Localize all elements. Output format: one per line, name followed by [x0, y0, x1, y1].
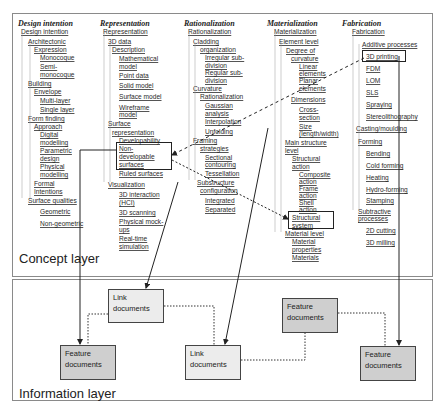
tree-node[interactable]: Point data — [119, 72, 149, 79]
tree-node[interactable]: Surface qualities — [28, 197, 77, 204]
tree-node[interactable]: Rationalization — [188, 28, 231, 35]
tree-node[interactable]: Non-geometric — [40, 220, 83, 227]
tree-node[interactable]: SLS — [366, 89, 378, 96]
tree-node[interactable]: Material level — [285, 230, 324, 237]
tree-node[interactable]: simulation — [119, 243, 149, 250]
tree-node[interactable]: section — [299, 114, 320, 121]
tree-node[interactable]: Structural — [292, 155, 320, 162]
tree-node[interactable]: division — [205, 77, 227, 84]
tree-node[interactable]: (HCI) — [119, 199, 135, 206]
tree-node[interactable]: Spraying — [366, 101, 392, 108]
tree-node[interactable]: 3D milling — [366, 239, 395, 246]
tree-node[interactable]: Expression — [34, 46, 67, 53]
tree-node[interactable]: configuration — [200, 187, 238, 194]
tree-node[interactable]: Degree of — [286, 47, 315, 54]
tree-node[interactable]: Stereolithography — [366, 113, 418, 120]
tree-node[interactable]: Intentions — [34, 188, 63, 195]
tree-node[interactable]: Representation — [103, 28, 148, 35]
tree-node[interactable]: Gaussian — [205, 102, 233, 109]
tree-node[interactable]: Architectonic — [28, 38, 66, 45]
tree-node[interactable]: level — [285, 147, 299, 154]
tree-node[interactable]: Dimensions — [291, 96, 325, 103]
tree-node[interactable]: Real-time — [119, 235, 147, 242]
tree-node[interactable]: Planar — [299, 77, 318, 84]
tree-node[interactable]: Forming — [358, 138, 382, 145]
tree-node[interactable]: Semi- — [40, 63, 57, 70]
tree-node[interactable]: curvature — [291, 55, 319, 62]
feature-documents-box-2[interactable]: Feature documents — [282, 298, 338, 333]
tree-node[interactable]: Additive processes — [362, 41, 417, 48]
tree-node[interactable]: analysis — [205, 110, 229, 117]
tree-node[interactable]: elements — [299, 85, 326, 92]
tree-node[interactable]: organization — [200, 46, 236, 53]
tree-node[interactable]: Physical mock- — [119, 218, 163, 225]
tree-node[interactable]: Hydro-forming — [366, 186, 408, 193]
tree-node[interactable]: Unfolding — [205, 128, 233, 135]
tree-node[interactable]: Visualization — [108, 181, 145, 188]
tree-node[interactable]: contouring — [205, 161, 236, 168]
tree-node[interactable]: Heating — [366, 174, 389, 181]
tree-node[interactable]: Physical — [40, 163, 65, 170]
tree-node[interactable]: Ruled surfaces — [119, 170, 163, 177]
tree-node[interactable]: Parametric — [40, 147, 72, 154]
tree-node[interactable]: 3D scanning — [119, 209, 156, 216]
tree-node[interactable]: strategies — [200, 145, 229, 152]
tree-node[interactable]: Materialization — [274, 28, 317, 35]
tree-node[interactable]: Description — [112, 46, 145, 53]
tree-node[interactable]: Substructure — [197, 179, 234, 186]
tree-node[interactable]: Casting/moulding — [356, 125, 407, 132]
tree-node[interactable]: action — [292, 163, 310, 170]
tree-node[interactable]: Cold forming — [366, 162, 403, 169]
tree-node[interactable]: Cross- — [299, 106, 318, 113]
tree-node[interactable]: Digital — [40, 131, 58, 138]
tree-node[interactable]: Integrated — [205, 197, 235, 204]
tree-node[interactable]: Rationalization — [200, 93, 243, 100]
tree-node[interactable]: (length/width) — [299, 130, 339, 137]
tree-node[interactable]: ups — [119, 226, 130, 233]
tree-node[interactable]: Geometric — [40, 208, 70, 215]
tree-node[interactable]: Monocoque — [40, 54, 74, 61]
tree-node[interactable]: monocoque — [40, 71, 74, 78]
tree-node[interactable]: modelling — [40, 139, 68, 146]
tree-node[interactable]: FDM — [366, 65, 380, 72]
tree-node[interactable]: Element level — [279, 38, 319, 45]
tree-node[interactable]: Materials — [292, 254, 319, 261]
tree-node[interactable]: 3D data — [108, 38, 131, 45]
tree-node[interactable]: LOM — [366, 77, 380, 84]
tree-node[interactable]: processes — [358, 215, 388, 222]
tree-node[interactable]: model — [119, 111, 137, 118]
tree-node[interactable]: Solid model — [119, 82, 153, 89]
tree-node[interactable]: Multi-layer — [40, 97, 70, 104]
tree-node[interactable]: model — [119, 63, 137, 70]
tree-node[interactable]: Envelope — [34, 88, 62, 95]
tree-node[interactable]: Curvature — [193, 85, 222, 92]
tree-node[interactable]: Regular sub- — [205, 69, 243, 76]
tree-node[interactable]: Tessellation — [205, 170, 239, 177]
tree-node[interactable]: representation — [112, 129, 154, 136]
tree-node[interactable]: Interpolation — [205, 118, 241, 125]
tree-node[interactable]: Surface — [108, 120, 131, 127]
tree-node[interactable]: Framing — [193, 137, 217, 144]
link-documents-box-1[interactable]: Link documents — [108, 289, 164, 323]
tree-node[interactable]: modelling — [40, 171, 68, 178]
tree-node[interactable]: Material — [292, 238, 315, 245]
tree-node[interactable]: Design intention — [21, 28, 68, 35]
tree-node[interactable]: design — [40, 155, 59, 162]
tree-node[interactable]: Mathematical — [119, 55, 158, 62]
tree-node[interactable]: Single layer — [40, 106, 74, 113]
tree-node[interactable]: Bending — [366, 150, 390, 157]
tree-node[interactable]: Surface model — [119, 93, 162, 100]
tree-node[interactable]: Cladding — [193, 38, 219, 45]
tree-node[interactable]: Stamping — [366, 197, 394, 204]
tree-node[interactable]: Main structure — [285, 139, 327, 146]
tree-node[interactable]: properties — [292, 246, 321, 253]
tree-node[interactable]: 2D cutting — [366, 227, 396, 234]
feature-documents-box-3[interactable]: Feature documents — [360, 346, 416, 381]
tree-node[interactable]: Separated — [205, 206, 235, 213]
tree-node[interactable]: Approach — [34, 123, 62, 130]
tree-node[interactable]: Formal — [34, 180, 55, 187]
tree-node[interactable]: 3D interaction — [119, 191, 160, 198]
tree-node[interactable]: Irregular sub- — [205, 54, 244, 61]
feature-documents-box-1[interactable]: Feature documents — [60, 345, 116, 380]
tree-node[interactable]: Building — [28, 80, 51, 87]
